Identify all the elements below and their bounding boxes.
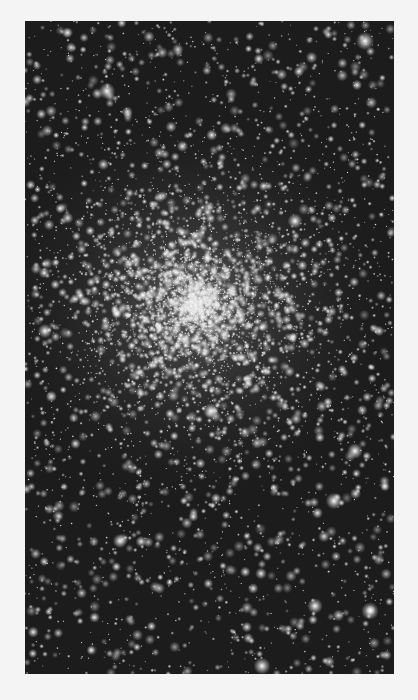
star-field — [25, 21, 394, 674]
star-cluster-photo — [25, 21, 394, 674]
